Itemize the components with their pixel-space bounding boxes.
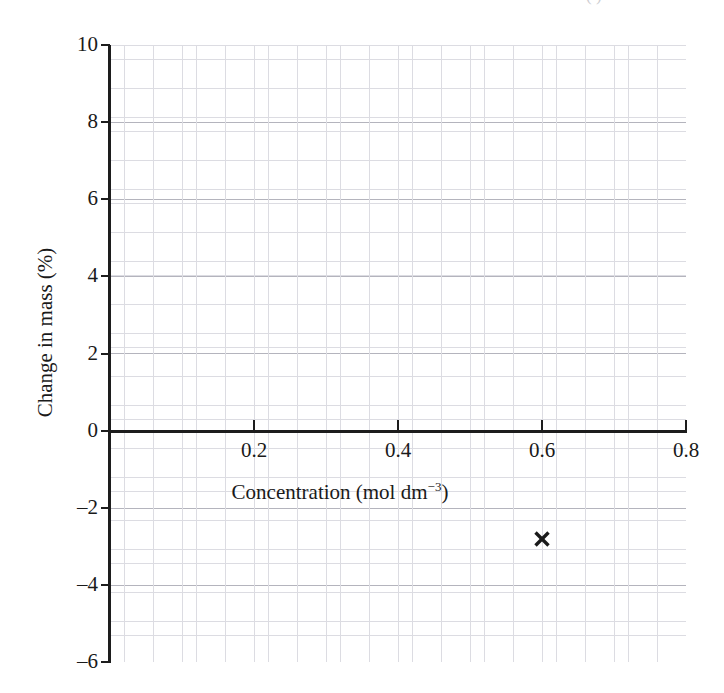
x-axis-tick-mark bbox=[253, 420, 255, 431]
x-axis-tick-label: 0.4 bbox=[363, 440, 433, 461]
graph-figure: 1086420–2–4–6 0.20.40.60.8 Change in mas… bbox=[0, 0, 724, 693]
x-axis-title-exponent: −3 bbox=[428, 479, 442, 494]
y-axis-tick-label-wrap: 10 bbox=[40, 34, 98, 56]
y-axis-tick-label: 2 bbox=[52, 343, 98, 364]
x-axis-title-paren: ) bbox=[441, 480, 448, 504]
x-axis-tick-label: 0.8 bbox=[651, 440, 721, 461]
data-point-marker bbox=[529, 526, 555, 552]
x-axis-title-text: Concentration (mol dm bbox=[232, 480, 428, 504]
y-axis-tick-mark bbox=[101, 198, 110, 200]
x-axis-tick-label-wrap: 0.6 bbox=[507, 440, 577, 466]
y-axis-tick-label: 8 bbox=[52, 111, 98, 132]
y-axis-tick-label-wrap: –6 bbox=[40, 651, 98, 673]
x-axis-tick-label-wrap: 0.4 bbox=[363, 440, 433, 466]
y-axis-title: Change in mass (%) bbox=[33, 153, 58, 513]
x-axis-title: Concentration (mol dm−3) bbox=[130, 480, 550, 505]
y-axis-tick-label: 0 bbox=[52, 420, 98, 441]
y-axis-tick-mark bbox=[101, 44, 110, 46]
y-axis-tick-label: 10 bbox=[52, 34, 98, 55]
y-axis-tick-label: 6 bbox=[52, 188, 98, 209]
x-axis-tick-label: 0.6 bbox=[507, 440, 577, 461]
y-axis-tick-mark bbox=[101, 275, 110, 277]
x-axis-tick-label-wrap: 0.8 bbox=[651, 440, 721, 466]
x-axis-tick-mark bbox=[397, 420, 399, 431]
y-axis-tick-label: –6 bbox=[52, 651, 98, 672]
x-axis-tick-label-wrap: 0.2 bbox=[219, 440, 289, 466]
y-axis-tick-label-wrap: –4 bbox=[40, 574, 98, 596]
y-axis-tick-mark bbox=[101, 353, 110, 355]
x-axis-tick-mark bbox=[541, 420, 543, 431]
y-axis-tick-mark bbox=[101, 661, 110, 663]
y-axis-tick-mark bbox=[101, 584, 110, 586]
y-axis-tick-mark bbox=[101, 430, 110, 432]
y-axis-tick-label: –4 bbox=[52, 574, 98, 595]
y-axis-tick-label-wrap: 8 bbox=[40, 111, 98, 133]
y-axis-tick-label: 4 bbox=[52, 265, 98, 286]
x-axis-tick-label: 0.2 bbox=[219, 440, 289, 461]
y-axis-tick-label: –2 bbox=[52, 497, 98, 518]
y-axis-tick-mark bbox=[101, 507, 110, 509]
y-axis-tick-mark bbox=[101, 121, 110, 123]
graph-paper-grid bbox=[110, 45, 686, 662]
x-axis-tick-mark bbox=[685, 420, 687, 431]
